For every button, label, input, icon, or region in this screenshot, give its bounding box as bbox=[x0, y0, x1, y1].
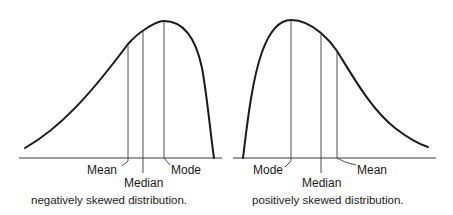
positive-mode-label: Mode bbox=[253, 163, 283, 177]
negative-mean-label: Mean bbox=[87, 163, 117, 177]
positive-skew-curve bbox=[243, 20, 428, 158]
skewed-distributions-figure: Mean Median Mode negatively skewed distr… bbox=[0, 0, 453, 215]
positive-median-label: Median bbox=[302, 176, 341, 190]
negative-mode-label: Mode bbox=[171, 163, 201, 177]
positive-skew-diagram: Mode Median Mean positively skewed distr… bbox=[233, 20, 436, 206]
negative-caption: negatively skewed distribution. bbox=[31, 194, 187, 206]
positive-mode-leader bbox=[285, 158, 291, 167]
positive-mean-label: Mean bbox=[357, 163, 387, 177]
positive-mean-leader bbox=[337, 158, 356, 165]
negative-mode-leader bbox=[164, 158, 170, 165]
negative-median-label: Median bbox=[124, 176, 163, 190]
negative-skew-curve bbox=[25, 21, 214, 158]
positive-caption: positively skewed distribution. bbox=[252, 194, 404, 206]
negative-mean-leader bbox=[122, 158, 128, 166]
negative-skew-diagram: Mean Median Mode negatively skewed distr… bbox=[19, 21, 222, 206]
